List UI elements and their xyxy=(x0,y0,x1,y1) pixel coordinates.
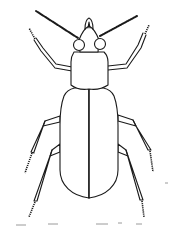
right-elytron xyxy=(89,87,118,198)
right-eye xyxy=(95,39,106,50)
right-middle-tarsus xyxy=(150,151,153,172)
left-antenna xyxy=(36,11,78,38)
right-front-tarsus xyxy=(145,25,149,34)
left-hind-tarsus xyxy=(29,202,35,217)
left-eye xyxy=(74,40,85,51)
right-middle-leg xyxy=(133,120,151,150)
right-hind-leg xyxy=(126,150,143,200)
elytra xyxy=(60,87,118,198)
left-hind-leg xyxy=(34,150,52,201)
beetle-illustration xyxy=(0,0,174,227)
left-front-tarsus xyxy=(29,28,35,39)
left-elytron xyxy=(60,87,89,198)
left-front-leg xyxy=(34,38,72,71)
right-hind-tarsus xyxy=(142,201,144,217)
right-front-leg xyxy=(108,33,146,70)
left-middle-tarsus xyxy=(25,153,32,173)
right-antenna xyxy=(100,16,137,36)
left-middle-leg xyxy=(31,121,45,153)
pronotum xyxy=(71,52,108,89)
